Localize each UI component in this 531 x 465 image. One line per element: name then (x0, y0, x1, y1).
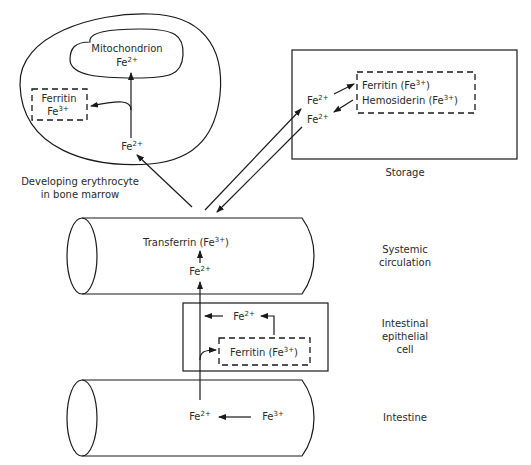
arrow-to-epithelial-ferritin (200, 350, 216, 360)
storage-ferritin: Ferritin (Fe3+) (362, 79, 430, 91)
storage-label: Storage (385, 167, 424, 178)
arrow-circulation-to-erythrocyte (137, 155, 192, 207)
epithelial-label-2: epithelial (382, 331, 428, 342)
intestine-end-left (67, 380, 97, 456)
erythrocyte-ferritin-ion: Fe3+ (47, 105, 69, 117)
epithelial-fe: Fe2+ (233, 310, 255, 322)
epithelial-label-1: Intestinal (382, 318, 429, 329)
arrow-to-storage-box (334, 84, 354, 94)
storage-fe-top: Fe2+ (307, 94, 329, 106)
vessel-body (82, 218, 314, 294)
arrow-to-ferritin (91, 102, 131, 110)
erythrocyte-fe-entry: Fe2+ (121, 140, 143, 152)
systemic-label-2: circulation (379, 257, 431, 268)
erythrocyte-label-2: in bone marrow (41, 189, 119, 200)
epithelial-cell: Ferritin (Fe3+) Fe2+ (183, 303, 328, 371)
arrow-ferritin-to-fe (261, 316, 274, 335)
storage-fe-bottom: Fe2+ (307, 113, 329, 125)
systemic-label-1: Systemic (382, 244, 428, 255)
intestine-fe-right: Fe3+ (262, 410, 284, 422)
erythrocyte-label-1: Developing erythrocyte (21, 176, 139, 187)
epithelial-box (183, 303, 328, 371)
transferrin-label: Transferrin (Fe3+) (142, 236, 229, 248)
erythrocyte-cell: Mitochondrion Fe2+ Ferritin Fe3+ Fe2+ (20, 14, 221, 165)
arrow-storage-to-circulation (217, 127, 302, 212)
arrow-from-storage-box (334, 100, 353, 112)
storage-compartment: Ferritin (Fe3+) Hemosiderin (Fe3+) Fe2+ … (292, 50, 517, 159)
mitochondrion-ion: Fe2+ (116, 56, 138, 68)
iron-metabolism-diagram: Mitochondrion Fe2+ Ferritin Fe3+ Fe2+ De… (0, 0, 531, 465)
arrow-circulation-to-storage (205, 109, 301, 210)
mitochondrion-label: Mitochondrion (91, 43, 162, 54)
systemic-fe: Fe2+ (189, 265, 211, 277)
systemic-circulation-vessel: Transferrin (Fe3+) Fe2+ (67, 218, 314, 294)
erythrocyte-ferritin-label: Ferritin (41, 93, 76, 104)
intestine-label: Intestine (383, 412, 427, 423)
intestine-vessel: Fe2+ Fe3+ (67, 380, 314, 456)
vessel-end-left (67, 218, 97, 294)
intestine-fe-left: Fe2+ (189, 410, 211, 422)
storage-hemosiderin: Hemosiderin (Fe3+) (362, 94, 458, 106)
epithelial-label-3: cell (396, 344, 413, 355)
epithelial-ferritin: Ferritin (Fe3+) (230, 346, 298, 358)
